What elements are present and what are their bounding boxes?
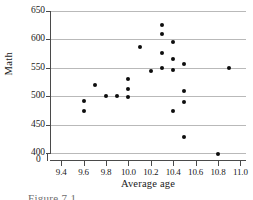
- x-axis-tick: [218, 161, 219, 166]
- x-axis-tick: [61, 161, 62, 166]
- x-axis-tick-label: 10.2: [143, 168, 158, 177]
- data-point: [138, 45, 142, 49]
- y-axis-tick-label: 550: [31, 63, 45, 73]
- gridline: [50, 68, 246, 69]
- x-axis-tick: [151, 161, 152, 166]
- data-point: [93, 83, 97, 87]
- x-axis-tick-label: 9.6: [78, 168, 89, 177]
- gridline: [50, 11, 246, 12]
- y-axis-line: [50, 11, 51, 153]
- x-axis-tick: [240, 161, 241, 166]
- data-point: [149, 69, 153, 73]
- data-point: [227, 66, 231, 70]
- data-point: [216, 152, 220, 156]
- plot-area: 400450500550600650: [50, 11, 246, 153]
- data-point: [160, 23, 164, 27]
- data-point: [182, 89, 186, 93]
- x-axis-tick-label: 10.4: [166, 168, 181, 177]
- y-axis-tick-label: 600: [31, 35, 45, 45]
- x-axis-tick-label: 10.8: [211, 168, 226, 177]
- x-axis-tick: [196, 161, 197, 166]
- y-axis-tick-label: 450: [31, 120, 45, 130]
- gridline: [50, 125, 246, 126]
- data-point: [182, 135, 186, 139]
- figure-caption: Figure 7.1: [28, 192, 248, 200]
- data-point: [82, 109, 86, 113]
- y-axis-tick-label: 500: [31, 91, 45, 101]
- data-point: [171, 109, 175, 113]
- x-axis-title: Average age: [50, 178, 246, 189]
- x-axis-tick-label: 10.0: [121, 168, 136, 177]
- x-axis-tick: [84, 161, 85, 166]
- scatter-plot-figure: Math 400450500550600650 0 9.49.69.810.01…: [0, 0, 253, 200]
- data-point: [126, 95, 130, 99]
- data-point: [160, 51, 164, 55]
- data-point: [171, 57, 175, 61]
- data-point: [126, 77, 130, 81]
- gridline: [50, 39, 246, 40]
- data-point: [126, 87, 130, 91]
- y-axis-break-marker: [47, 153, 55, 161]
- data-point: [160, 66, 164, 70]
- data-point: [182, 100, 186, 104]
- data-point: [171, 40, 175, 44]
- data-point: [82, 99, 86, 103]
- x-axis-tick: [128, 161, 129, 166]
- y-axis-tick-label: 650: [31, 6, 45, 16]
- x-axis-tick-label: 10.6: [188, 168, 203, 177]
- x-axis-tick: [106, 161, 107, 166]
- y-axis-title: Math: [3, 52, 14, 75]
- y-axis-zero-label: 0: [36, 155, 41, 165]
- data-point: [104, 94, 108, 98]
- gridline: [50, 96, 246, 97]
- data-point: [171, 68, 175, 72]
- x-axis-tick-label: 9.8: [101, 168, 112, 177]
- data-point: [182, 62, 186, 66]
- data-point: [160, 32, 164, 36]
- data-point: [115, 94, 119, 98]
- x-axis-tick: [173, 161, 174, 166]
- x-axis-tick-label: 9.4: [56, 168, 67, 177]
- x-axis-tick-label: 11.0: [233, 168, 248, 177]
